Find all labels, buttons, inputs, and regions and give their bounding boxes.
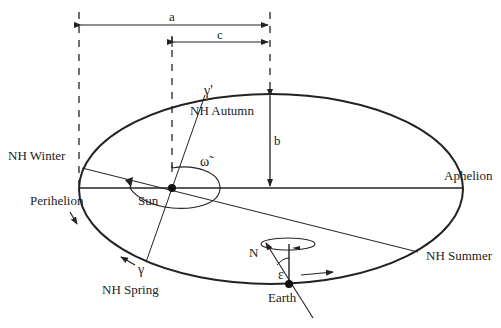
nh-winter-label: NH Winter	[8, 148, 66, 163]
earth-label: Earth	[268, 290, 297, 305]
perihelion-label: Perihelion	[30, 193, 84, 208]
sun	[168, 184, 176, 192]
sun-label: Sun	[138, 193, 159, 208]
b-label: b	[274, 133, 281, 148]
orbit-direction-arrow-earth	[301, 272, 333, 275]
earth-orbit	[79, 94, 463, 284]
equinox-line	[146, 95, 205, 262]
orbit-direction-arrow-perihelion	[70, 212, 77, 224]
omega-tilde-symbol: ω̃	[200, 154, 214, 169]
north-label: N	[249, 245, 259, 260]
nh-spring-label: NH Spring	[102, 282, 159, 297]
vernal-equinox-symbol: γ	[137, 262, 144, 277]
orbit-diagram: a c b Sun ω̃ NH Winter Perihelion Apheli…	[0, 0, 501, 328]
earth	[285, 280, 293, 288]
aphelion-label: Aphelion	[444, 168, 493, 183]
nh-summer-label: NH Summer	[426, 248, 493, 263]
autumnal-equinox-symbol: γ'	[203, 83, 213, 98]
nh-autumn-label: NH Autumn	[190, 103, 254, 118]
c-label: c	[217, 27, 223, 42]
orbit-direction-arrow-spring	[121, 257, 135, 265]
a-label: a	[169, 9, 175, 24]
obliquity-symbol: ε	[278, 267, 284, 282]
precession-circle	[261, 238, 315, 250]
